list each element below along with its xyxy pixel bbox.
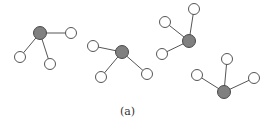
center-node [34, 27, 47, 40]
leaf-node [45, 59, 56, 70]
leaf-node [157, 49, 168, 60]
leaf-node [88, 41, 99, 52]
leaf-node [142, 69, 153, 80]
leaf-node [192, 70, 203, 81]
star-graph-1 [15, 27, 77, 70]
star-graph-2 [88, 41, 153, 83]
center-node [116, 46, 129, 59]
center-node [183, 35, 196, 48]
leaf-node [189, 4, 200, 15]
leaf-node [96, 72, 107, 83]
figure-canvas: (a) [0, 0, 271, 135]
leaf-node [222, 54, 233, 65]
leaf-node [249, 73, 260, 84]
leaf-node [160, 17, 171, 28]
center-node [218, 86, 231, 99]
leaf-node [66, 28, 77, 39]
leaf-node [15, 52, 26, 63]
star-graph-3 [157, 4, 200, 60]
figure-caption: (a) [0, 105, 263, 118]
star-graph-4 [192, 54, 260, 99]
